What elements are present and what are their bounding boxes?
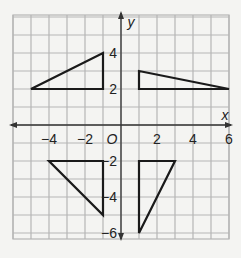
y-tick-label: −2	[101, 153, 117, 169]
y-axis-label: y	[127, 14, 136, 30]
x-tick-label: 4	[189, 131, 197, 147]
y-tick-label: −6	[101, 225, 117, 241]
axes	[9, 11, 233, 241]
y-tick-label: 4	[109, 45, 117, 61]
triangle-q1	[139, 71, 229, 89]
y-axis-arrow-down-icon	[118, 233, 124, 241]
coordinate-plane: −4−224642−2−4−6Oxy	[0, 0, 241, 258]
triangle-q3	[49, 161, 103, 215]
x-tick-label: 6	[225, 131, 233, 147]
y-tick-label: −4	[101, 189, 117, 205]
y-tick-label: 2	[109, 81, 117, 97]
x-tick-label: −4	[41, 131, 57, 147]
x-tick-label: −2	[77, 131, 93, 147]
tick-labels: −4−224642−2−4−6Oxy	[41, 14, 233, 241]
origin-label: O	[107, 131, 118, 147]
x-tick-label: 2	[153, 131, 161, 147]
x-axis-label: x	[221, 107, 230, 123]
